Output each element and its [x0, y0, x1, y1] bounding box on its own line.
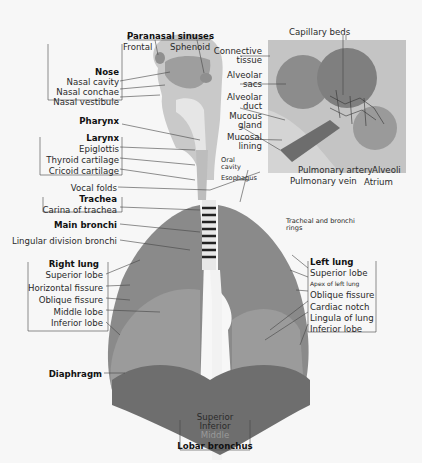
connective-tissue-label-2: tissue: [200, 55, 262, 65]
right-lung-label: Right lung: [30, 259, 99, 269]
mucous-gland-label-2: gland: [200, 120, 262, 130]
lingular-division-bronchi-label: Lingular division bronchi: [0, 236, 117, 246]
middle-lobe-label: Middle lobe: [10, 307, 103, 317]
lingula-of-lung-label: Lingula of lung: [310, 313, 374, 323]
alveolus-inset: [268, 40, 406, 173]
mucosal-lining-label-2: lining: [200, 141, 262, 151]
left-lung-label: Left lung: [310, 257, 353, 267]
left-superior-lobe-label: Superior lobe: [310, 268, 367, 278]
carina-of-trachea-label: Carina of trachea: [20, 205, 117, 215]
larynx-label: Larynx: [60, 133, 119, 143]
diaphragm-label: Diaphragm: [20, 369, 102, 379]
trachea-label: Trachea: [20, 194, 117, 204]
pulmonary-artery-label: Pulmonary artery: [298, 165, 373, 175]
oral-cavity-label-2: cavity: [221, 163, 241, 171]
right-oblique-fissure-label: Oblique fissure: [10, 295, 103, 305]
frontal-sinus-label: Frontal: [123, 42, 152, 52]
capillary-beds-label: Capillary beds: [289, 27, 350, 37]
nasal-cavity-label: Nasal cavity: [30, 77, 119, 87]
alveoli-label: Alveoli: [372, 165, 401, 175]
pharynx-label: Pharynx: [60, 116, 119, 126]
tracheal-rings-label-2: rings: [286, 224, 302, 232]
esophagus-label: Esophagus: [221, 174, 257, 182]
alveolar-sacs-label-2: sacs: [200, 79, 262, 89]
apex-of-left-lung-label: Apex of left lung: [310, 280, 359, 287]
alveolar-duct-label-2: duct: [200, 101, 262, 111]
nose-label: Nose: [60, 67, 119, 77]
lobar-bronchus-label: Lobar bronchus: [166, 441, 264, 451]
main-bronchi-label: Main bronchi: [20, 220, 117, 230]
cardiac-notch-label: Cardiac notch: [310, 302, 369, 312]
nasal-vestibule-label: Nasal vestibule: [30, 97, 119, 107]
right-inferior-lobe-label: Inferior lobe: [10, 318, 103, 328]
vocal-folds-label: Vocal folds: [20, 183, 117, 193]
epiglottis-label: Epiglottis: [20, 144, 119, 154]
right-superior-lobe-label: Superior lobe: [10, 270, 103, 280]
left-oblique-fissure-label: Oblique fissure: [310, 290, 374, 300]
cricoid-cartilage-label: Cricoid cartilage: [20, 166, 119, 176]
nasal-conchae-label: Nasal conchae: [30, 87, 119, 97]
thyroid-cartilage-label: Thyroid cartilage: [20, 155, 119, 165]
paranasal-sinuses-label: Paranasal sinuses: [127, 31, 214, 41]
lobar-middle-label: Middle: [176, 430, 254, 440]
atrium-label: Atrium: [364, 177, 393, 187]
pulmonary-vein-label: Pulmonary vein: [290, 176, 357, 186]
horizontal-fissure-label: Horizontal fissure: [10, 283, 103, 293]
left-inferior-lobe-label: Inferior lobe: [310, 324, 362, 334]
